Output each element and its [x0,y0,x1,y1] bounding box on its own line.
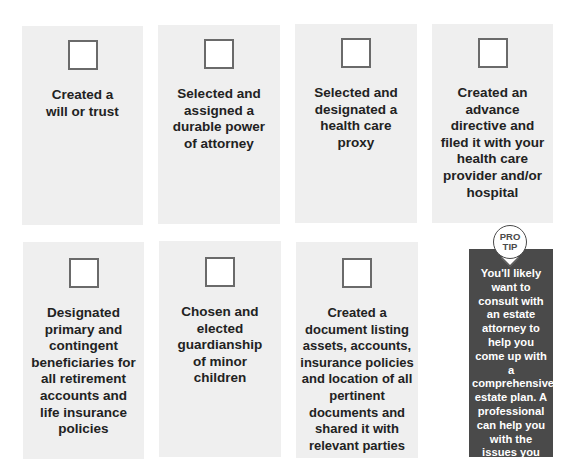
checklist-card-document-listing: Created a document listing assets, accou… [296,242,418,458]
checklist-label: Selected and designated a health care pr… [303,85,409,151]
checklist-card-will: Created a will or trust [22,26,143,225]
checklist-card-power-of-attorney: Selected and assigned a durable power of… [158,25,280,224]
checklist-card-health-care-proxy: Selected and designated a health care pr… [295,24,417,223]
checklist-label: Created an advance directive and filed i… [434,85,551,201]
checkbox[interactable] [204,39,234,69]
checklist-label: Selected and assigned a durable power of… [166,86,272,152]
badge-line-2: TIP [494,242,526,252]
checkbox[interactable] [205,257,235,287]
checkbox[interactable] [342,258,372,288]
checklist-card-advance-directive: Created an advance directive and filed i… [432,24,553,223]
checklist-label: Created a document listing assets, accou… [296,305,418,454]
checklist-card-beneficiaries: Designated primary and contingent benefi… [23,242,144,459]
checkbox[interactable] [478,38,508,68]
checkbox[interactable] [68,40,98,70]
checklist-label: Created a will or trust [30,87,135,120]
checkbox[interactable] [69,258,99,288]
pro-tip-box: You'll likely want to consult with an es… [469,249,553,457]
pro-tip-text: You'll likely want to consult with an es… [469,267,553,474]
checklist-card-guardianship: Chosen and elected guardianship of minor… [159,241,281,457]
checkbox[interactable] [341,38,371,68]
pro-tip-badge: PRO TIP [493,225,527,259]
checklist-label: Designated primary and contingent benefi… [25,305,142,438]
checklist-label: Chosen and elected guardianship of minor… [167,304,273,387]
